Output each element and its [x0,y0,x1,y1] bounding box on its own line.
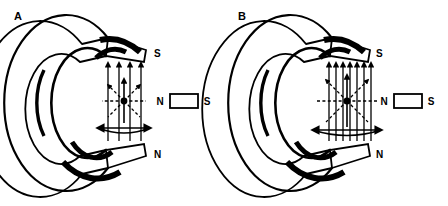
bar-magnet-label-s: S [204,96,211,107]
bar-magnet-label-n: N [380,96,387,107]
bar-magnet-body [170,94,198,108]
panel-a-label: A [14,10,22,22]
panel-b-label: B [238,10,246,22]
bar-magnet-body [394,94,422,108]
bar-magnet-label-s: S [428,96,435,107]
magnetic-field-diagram: A S N [0,0,448,206]
panel-b-pole-label-n: N [376,149,383,160]
panel-a-pole-label-s: S [154,48,161,59]
panel-a-pole-label-n: N [154,149,161,160]
panel-b-pole-label-s: S [376,48,383,59]
bar-magnet-label-n: N [156,96,163,107]
